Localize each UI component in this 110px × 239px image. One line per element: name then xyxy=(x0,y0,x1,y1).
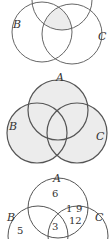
venn-2: A B C xyxy=(7,71,107,163)
label-b: B xyxy=(12,18,21,31)
label-b: B xyxy=(8,120,17,133)
region-b-only: 5 xyxy=(17,225,23,236)
label-c: C xyxy=(95,211,104,224)
label-a: A xyxy=(55,71,64,84)
label-a: A xyxy=(52,172,61,185)
region-abc: 3 xyxy=(52,221,58,232)
venn-1: B C xyxy=(12,0,107,64)
region-ac-9: 9 xyxy=(76,203,82,214)
region-a-only: 6 xyxy=(52,188,58,199)
region-ac-12: 12 xyxy=(69,215,82,226)
label-b: B xyxy=(6,211,15,224)
label-c: C xyxy=(96,130,105,143)
region-ac-1: 1 xyxy=(66,203,72,214)
venn-3: A B C 6 1 9 12 3 5 xyxy=(6,172,108,239)
venn-diagrams: B C A B C A B C 6 1 9 12 3 5 xyxy=(0,0,110,239)
label-c: C xyxy=(98,30,107,43)
